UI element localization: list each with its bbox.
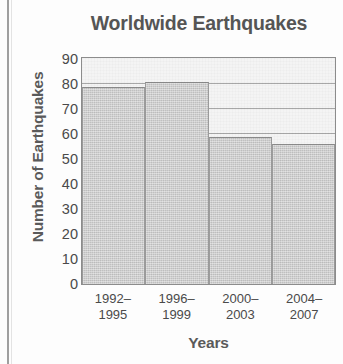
- page-margin-rule: [7, 0, 9, 364]
- x-axis-tick-labels: 1992–19951996–19992000–20032004–2007: [81, 291, 336, 323]
- y-axis-tick-labels: 9080706050403020100: [52, 0, 78, 364]
- y-axis-tick-label: 0: [52, 277, 78, 292]
- bar: [145, 82, 208, 285]
- bar-slot: [82, 58, 145, 284]
- chart-title: Worldwide Earthquakes: [60, 12, 338, 35]
- x-axis-title: Years: [81, 334, 336, 352]
- bar: [272, 144, 335, 284]
- y-axis-tick-label: 30: [52, 202, 78, 217]
- y-axis-tick-label: 40: [52, 177, 78, 192]
- y-axis-title: Number of Earthquakes: [29, 57, 47, 257]
- x-axis-tick-label: 2004–2007: [272, 291, 336, 323]
- x-axis-tick-label: 1996–1999: [145, 291, 209, 323]
- x-axis-tick-label: 2000–2003: [209, 291, 273, 323]
- y-axis-tick-label: 70: [52, 102, 78, 117]
- y-axis-tick-label: 20: [52, 227, 78, 242]
- page-margin-rule-secondary: [11, 0, 12, 364]
- y-axis-tick-label: 50: [52, 152, 78, 167]
- bar: [209, 137, 272, 285]
- y-axis-tick-label: 90: [52, 52, 78, 67]
- plot-area: [81, 57, 336, 285]
- bar: [82, 87, 145, 285]
- chart-figure: Worldwide Earthquakes Number of Earthqua…: [0, 0, 343, 364]
- y-axis-tick-label: 80: [52, 77, 78, 92]
- bar-slot: [209, 58, 272, 284]
- y-axis-tick-label: 10: [52, 252, 78, 267]
- y-axis-tick-label: 60: [52, 127, 78, 142]
- bar-slot: [272, 58, 335, 284]
- bar-series: [82, 58, 335, 284]
- x-axis-tick-label: 1992–1995: [81, 291, 145, 323]
- bar-slot: [145, 58, 208, 284]
